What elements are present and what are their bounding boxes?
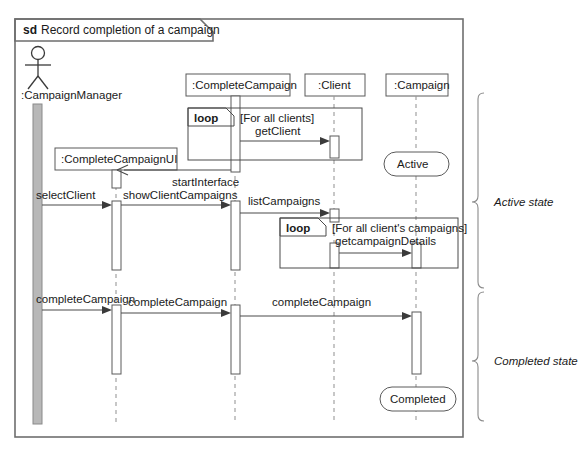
activation-completecampaignui-complete [112,305,121,374]
lifeline-label-completecampaignui: :CompleteCampaignUI [61,153,177,165]
lifeline-label-client: :Client [318,79,351,91]
message-label-startinterface: startInterface [172,176,239,188]
activation-completecampaign-top [231,96,240,172]
activation-completecampaign-complete [231,305,240,374]
message-showclientcampaigns: showClientCampaigns [121,189,238,209]
message-label-completecampaign-3: completeCampaign [272,296,371,308]
message-label-showclientcampaigns: showClientCampaigns [123,189,238,201]
activation-campaignmanager [33,104,42,424]
message-selectclient: selectClient [36,189,112,209]
lifeline-campaignmanager[interactable]: :CampaignManager [21,47,122,425]
frame-keyword: sd [23,23,37,37]
activation-completecampaignui-start [112,170,121,188]
state-completed: Completed [380,387,456,411]
fragment-operator-loop-campaigns: loop [286,222,310,234]
fragment-guard-loop-campaigns: [For all client's campaigns] [332,222,467,234]
brace-active-state: Active state [472,93,553,288]
message-getclient: getClient [240,125,330,145]
fragment-guard-loop-clients: [For all clients] [240,112,314,124]
message-completecampaign-2: completeCampaign [121,296,231,317]
brace-label-completed-state: Completed state [494,355,578,367]
message-label-listcampaigns: listCampaigns [248,195,320,207]
message-completecampaign-3: completeCampaign [240,296,412,320]
lifeline-client[interactable]: :Client [305,74,365,424]
frame-title: Record completion of a campaign [41,23,220,37]
activation-completecampaign-list [231,201,240,270]
message-label-selectclient: selectClient [36,189,96,201]
message-label-completecampaign-2: completeCampaign [128,296,227,308]
fragment-operator-loop-clients: loop [194,112,218,124]
state-label-active: Active [397,158,428,170]
state-active: Active [384,152,449,176]
lifeline-label-campaignmanager: :CampaignManager [21,89,122,101]
state-label-completed: Completed [390,393,446,405]
sequence-diagram-canvas: sd Record completion of a campaign :Camp… [0,0,585,450]
message-label-getclient: getClient [255,125,301,137]
message-listcampaigns: listCampaigns [240,195,330,217]
message-label-completecampaign-1: completeCampaign [36,293,135,305]
activation-client-getclient [330,136,339,158]
actor-stick-figure-icon [25,47,51,90]
lifeline-campaign[interactable]: :Campaign [386,74,450,424]
lifeline-label-completecampaign: :CompleteCampaign [192,79,297,91]
lifeline-label-campaign: :Campaign [394,79,450,91]
activation-client-listcampaigns [330,209,339,222]
brace-completed-state: Completed state [472,292,578,421]
message-label-getcampaigndetails: getcampaignDetails [335,235,436,247]
fragment-loop-campaigns: loop [For all client's campaigns] getcam… [280,218,467,268]
brace-label-active-state: Active state [493,196,553,208]
activation-campaign-complete [412,312,421,374]
activation-completecampaignui-select [112,201,121,270]
